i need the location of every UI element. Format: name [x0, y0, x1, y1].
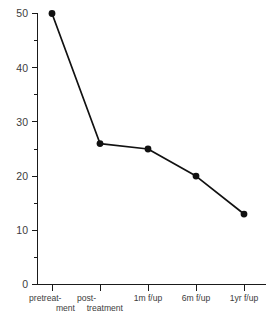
data-point-marker [193, 173, 200, 180]
x-axis-tick-label: 6m f/up [182, 293, 211, 303]
line-chart: 50403020100 pretreat-mentpost-treatment1… [0, 0, 269, 315]
y-axis-tick-label: 0 [22, 278, 28, 290]
y-axis-tick-label: 30 [16, 116, 28, 128]
data-point-marker [97, 140, 104, 147]
y-axis-tick-label: 40 [16, 62, 28, 74]
x-axis-tick-label: 1yr f/up [230, 293, 259, 303]
data-point-marker [241, 211, 248, 218]
x-axis-tick-label: pretreat- [29, 293, 62, 303]
data-point-marker [145, 146, 152, 153]
chart-background [0, 0, 269, 315]
chart-canvas: 50403020100 pretreat-mentpost-treatment1… [0, 0, 269, 315]
y-axis-tick-label: 10 [16, 224, 28, 236]
x-axis-tick-label-line2: ment [56, 303, 76, 313]
data-point-marker [49, 10, 56, 17]
y-axis-tick-label: 50 [16, 7, 28, 19]
y-axis-tick-label: 20 [16, 170, 28, 182]
x-axis-tick-label-line2: treatment [87, 303, 124, 313]
x-axis-tick-label: 1m f/up [134, 293, 163, 303]
x-axis-tick-label: post- [77, 293, 96, 303]
